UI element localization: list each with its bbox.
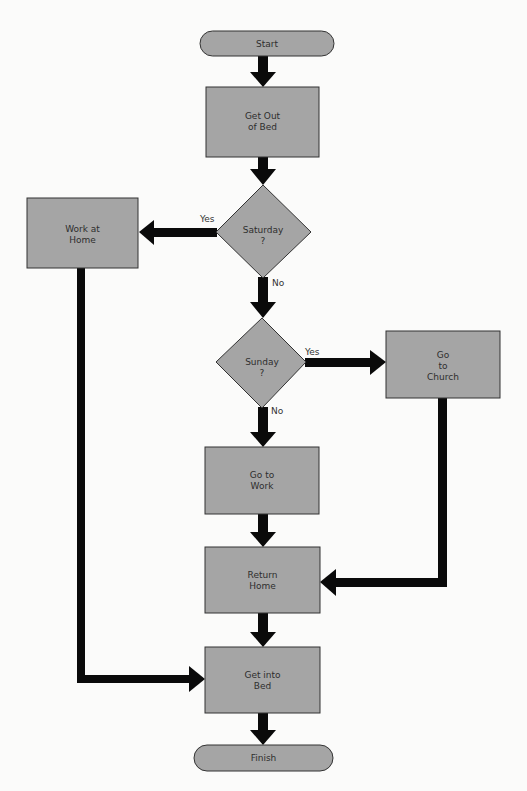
svg-text:?: ?	[261, 236, 266, 246]
arrow-work-at-home-to-get-into-bed	[77, 268, 205, 692]
svg-text:Home: Home	[69, 235, 96, 245]
svg-text:Get Out: Get Out	[245, 111, 281, 121]
svg-text:Get into: Get into	[244, 670, 281, 680]
node-get-out-of-bed: Get Out of Bed	[206, 87, 319, 157]
svg-text:Return: Return	[248, 570, 278, 580]
arrow-return-home-to-get-into-bed	[250, 613, 276, 647]
arrow-get-out-of-bed-to-saturday	[250, 157, 276, 185]
svg-text:Work: Work	[251, 481, 275, 491]
svg-text:Go: Go	[437, 350, 450, 360]
node-get-into-bed: Get into Bed	[205, 647, 320, 713]
arrow-go-to-work-to-return-home	[250, 514, 276, 547]
flowchart: Yes No Yes No Start Get Out of Bed Satur…	[0, 0, 527, 791]
svg-text:of Bed: of Bed	[248, 122, 277, 132]
arrow-go-to-church-to-return-home	[320, 398, 447, 596]
label-saturday-yes: Yes	[199, 214, 215, 224]
svg-text:?: ?	[260, 368, 265, 378]
arrow-start-to-get-out-of-bed	[250, 56, 276, 87]
svg-text:Sunday: Sunday	[245, 357, 279, 367]
svg-text:to: to	[438, 361, 448, 371]
label-sunday-no: No	[271, 406, 284, 416]
svg-text:Saturday: Saturday	[243, 225, 284, 235]
svg-text:Bed: Bed	[254, 681, 271, 691]
node-sunday-decision: Sunday ?	[216, 318, 306, 408]
node-saturday-decision: Saturday ?	[216, 185, 311, 278]
svg-text:Start: Start	[256, 39, 278, 49]
node-return-home: Return Home	[205, 547, 320, 613]
node-work-at-home: Work at Home	[27, 198, 138, 268]
svg-text:Work at: Work at	[65, 224, 100, 234]
svg-text:Go to: Go to	[250, 470, 275, 480]
label-saturday-no: No	[272, 278, 285, 288]
svg-text:Home: Home	[249, 581, 276, 591]
svg-text:Finish: Finish	[251, 753, 277, 763]
label-sunday-yes: Yes	[304, 347, 320, 357]
svg-text:Church: Church	[427, 372, 459, 382]
node-go-to-work: Go to Work	[205, 447, 319, 514]
arrow-get-into-bed-to-finish	[250, 713, 276, 745]
node-finish: Finish	[194, 745, 333, 771]
node-go-to-church: Go to Church	[386, 331, 500, 398]
node-start: Start	[200, 31, 334, 56]
